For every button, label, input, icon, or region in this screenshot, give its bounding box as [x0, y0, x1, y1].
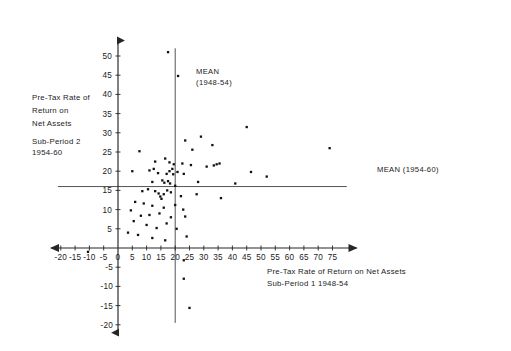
scatter-point: [184, 215, 186, 217]
scatter-point: [155, 227, 157, 229]
x-tick-label: 0: [116, 253, 121, 262]
scatter-point: [131, 170, 133, 172]
scatter-point: [169, 182, 171, 184]
y-tick-label: 40: [102, 90, 112, 99]
mean-vertical-label-line-2: (1948-54): [196, 78, 232, 87]
y-tick-label: -15: [101, 302, 114, 311]
scatter-plot-figure: -20-15-10-505101520253035404550556065707…: [0, 0, 511, 351]
x-tick-label: -15: [69, 253, 82, 262]
y-tick-label: 15: [102, 186, 112, 195]
scatter-point: [148, 214, 150, 216]
scatter-point: [220, 197, 222, 199]
scatter-point: [190, 164, 192, 166]
scatter-point: [127, 231, 129, 233]
scatter-point: [167, 51, 169, 53]
scatter-point: [173, 163, 175, 165]
scatter-point: [134, 201, 136, 203]
scatter-point: [188, 307, 190, 309]
x-tick-label: -5: [100, 253, 108, 262]
y-tick-label: 10: [102, 206, 112, 215]
x-axis-title-line-2: Sub-Period 1 1948-54: [267, 279, 349, 288]
scatter-point: [151, 237, 153, 239]
scatter-point: [147, 188, 149, 190]
y-axis-title: Pre-Tax Rate of Return on Net Assets Sub…: [32, 93, 91, 157]
scatter-point: [213, 164, 215, 166]
y-axis-title-line-2: Return on: [32, 106, 69, 115]
scatter-point: [165, 222, 167, 224]
x-tick-label: -20: [55, 253, 68, 262]
scatter-point: [200, 135, 202, 137]
scatter-point: [165, 173, 167, 175]
x-tick-label: 60: [285, 253, 295, 262]
x-tick-label: 20: [170, 253, 180, 262]
scatter-point: [175, 228, 177, 230]
scatter-point: [145, 224, 147, 226]
scatter-point: [218, 162, 220, 164]
x-axis-title: Pre-Tax Rate of Return on Net Assets Sub…: [267, 267, 406, 288]
scatter-point: [196, 193, 198, 195]
scatter-point: [159, 195, 161, 197]
mean-vertical-label: MEAN (1948-54): [196, 67, 232, 87]
scatter-point: [154, 190, 156, 192]
y-tick-label: 5: [107, 225, 112, 234]
y-axis-title-line-1: Pre-Tax Rate of: [32, 93, 91, 102]
y-tick-label: 35: [102, 110, 112, 119]
scatter-point: [161, 179, 163, 181]
scatter-point: [246, 126, 248, 128]
y-tick-label: -10: [101, 282, 114, 291]
scatter-point: [153, 168, 155, 170]
scatter-point: [141, 190, 143, 192]
scatter-point: [137, 234, 139, 236]
x-tick-label: 75: [328, 253, 338, 262]
scatter-point: [266, 175, 268, 177]
scatter-point: [157, 192, 159, 194]
scatter-point: [151, 181, 153, 183]
scatter-point: [87, 251, 89, 253]
scatter-point: [197, 181, 199, 183]
scatter-point: [172, 173, 174, 175]
scatter-plot-svg: -20-15-10-505101520253035404550556065707…: [0, 0, 511, 351]
scatter-point: [140, 215, 142, 217]
scatter-point: [158, 212, 160, 214]
y-tick-label: 20: [102, 167, 112, 176]
scatter-point: [170, 216, 172, 218]
x-tick-label: 55: [271, 253, 281, 262]
y-tick-label: 50: [102, 52, 112, 61]
scatter-point: [174, 204, 176, 206]
scatter-point: [164, 157, 166, 159]
scatter-point: [133, 220, 135, 222]
x-tick-label: 70: [313, 253, 323, 262]
x-tick-label: 10: [142, 253, 152, 262]
scatter-point: [185, 235, 187, 237]
scatter-point: [211, 144, 213, 146]
x-tick-label: 65: [299, 253, 309, 262]
scatter-point: [183, 259, 185, 261]
scatter-point: [171, 168, 173, 170]
x-tick-label: 50: [256, 253, 266, 262]
scatter-point: [184, 139, 186, 141]
scatter-point: [148, 169, 150, 171]
scatter-point: [176, 171, 178, 173]
x-tick-label: 30: [199, 253, 209, 262]
x-tick-label: -10: [83, 253, 96, 262]
scatter-point: [163, 207, 165, 209]
scatter-point: [143, 202, 145, 204]
x-tick-label: 40: [228, 253, 238, 262]
x-tick-label: 5: [130, 253, 135, 262]
scatter-point: [166, 189, 168, 191]
scatter-point: [216, 163, 218, 165]
scatter-point: [167, 180, 169, 182]
y-axis-title-line-4: Sub-Period 2: [32, 137, 81, 146]
scatter-point: [164, 239, 166, 241]
scatter-point: [163, 182, 165, 184]
scatter-point: [180, 195, 182, 197]
scatter-point: [160, 198, 162, 200]
y-tick-label: 25: [102, 148, 112, 157]
scatter-point: [130, 209, 132, 211]
scatter-point: [181, 162, 183, 164]
scatter-point: [163, 193, 165, 195]
scatter-point: [183, 278, 185, 280]
scatter-point: [177, 75, 179, 77]
y-axis-title-line-3: Net Assets: [32, 119, 72, 128]
x-axis-title-line-1: Pre-Tax Rate of Return on Net Assets: [267, 267, 406, 276]
